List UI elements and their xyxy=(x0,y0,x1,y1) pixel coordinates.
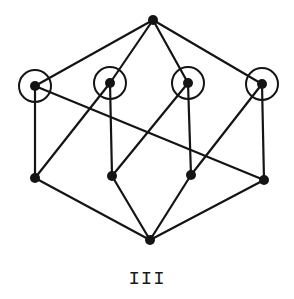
edge-m4-b4 xyxy=(262,84,264,180)
edge-top-m1 xyxy=(35,20,153,86)
node-b2 xyxy=(107,171,117,181)
edges xyxy=(35,20,264,240)
node-b3 xyxy=(186,170,196,180)
edge-top-m4 xyxy=(153,20,262,84)
node-b1 xyxy=(30,173,40,183)
edge-m2-b2 xyxy=(110,83,112,176)
edge-top-m2 xyxy=(110,20,153,83)
edge-m3-b2 xyxy=(112,83,188,176)
node-b4 xyxy=(259,175,269,185)
node-m1 xyxy=(30,81,40,91)
edge-m4-b3 xyxy=(191,84,262,175)
edge-m3-b3 xyxy=(188,83,191,175)
edge-b4-bottom xyxy=(150,180,264,240)
node-bottom xyxy=(145,235,155,245)
diagram-label: III xyxy=(0,268,294,290)
node-top xyxy=(148,15,158,25)
node-m4 xyxy=(257,79,267,89)
node-m2 xyxy=(105,78,115,88)
node-m3 xyxy=(183,78,193,88)
lattice-diagram xyxy=(0,0,294,299)
